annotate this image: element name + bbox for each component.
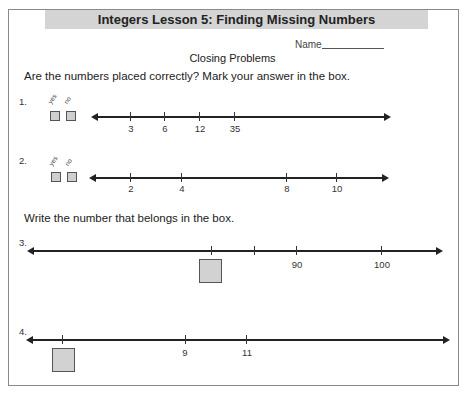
tick-label: 100 [367, 259, 397, 270]
tick-label: 35 [220, 123, 250, 134]
tick [286, 173, 287, 182]
tick-label: 6 [150, 123, 180, 134]
arrow-right-icon [436, 247, 443, 255]
tick [254, 246, 255, 255]
axis-line [97, 116, 385, 118]
tick-label: 4 [167, 183, 197, 194]
arrow-right-icon [443, 336, 450, 344]
tick [246, 335, 247, 344]
no-checkbox[interactable] [67, 172, 77, 182]
tick-label: 90 [282, 259, 312, 270]
name-field[interactable] [322, 48, 384, 49]
tick-label: 12 [185, 123, 215, 134]
section-subtitle: Closing Problems [0, 52, 465, 64]
tick [130, 173, 131, 182]
tick [185, 335, 186, 344]
problem-number: 3. [19, 237, 27, 248]
arrow-right-icon [382, 174, 389, 182]
yes-checkbox[interactable] [51, 172, 61, 182]
tick-label: 11 [232, 347, 262, 358]
tick [336, 173, 337, 182]
axis-line [33, 250, 437, 252]
problem-number: 1. [19, 96, 27, 107]
tick-label: 3 [116, 123, 146, 134]
tick-label: 10 [322, 183, 352, 194]
axis-line [32, 339, 444, 341]
tick [234, 112, 235, 121]
answer-box[interactable] [52, 348, 75, 372]
problem-number: 2. [19, 155, 27, 166]
tick [199, 112, 200, 121]
section1-instruction: Are the numbers placed correctly? Mark y… [24, 70, 350, 82]
axis-line [95, 177, 383, 179]
tick [130, 112, 131, 121]
worksheet-title: Integers Lesson 5: Finding Missing Numbe… [45, 10, 428, 29]
tick [62, 335, 63, 344]
no-checkbox[interactable] [66, 111, 76, 121]
section2-instruction: Write the number that belongs in the box… [24, 212, 234, 224]
answer-box[interactable] [199, 259, 222, 283]
arrow-right-icon [384, 113, 391, 121]
tick-label: 9 [170, 347, 200, 358]
tick-label: 8 [272, 183, 302, 194]
tick [181, 173, 182, 182]
yes-checkbox[interactable] [50, 111, 60, 121]
name-label: Name [295, 39, 322, 50]
tick [381, 246, 382, 255]
tick [164, 112, 165, 121]
worksheet-frame [8, 9, 459, 386]
tick [296, 246, 297, 255]
tick [211, 246, 212, 255]
tick-label: 2 [116, 183, 146, 194]
